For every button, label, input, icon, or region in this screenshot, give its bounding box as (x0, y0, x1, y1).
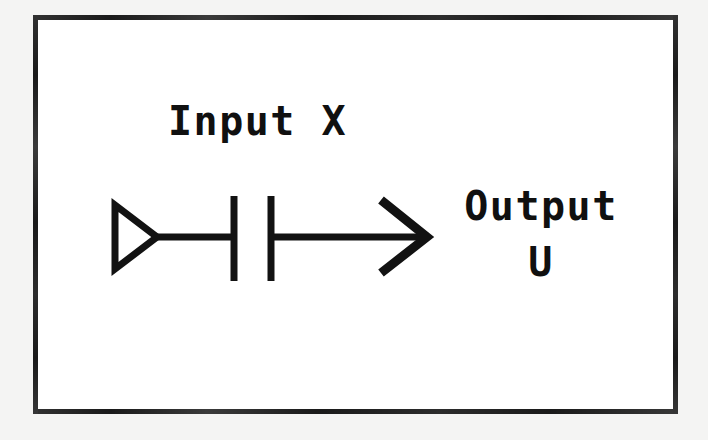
output-label-line2: U (458, 242, 624, 282)
frame-edge-bottom (33, 409, 678, 414)
output-label: OutputU (458, 186, 624, 282)
output-label-line1: Output (464, 183, 618, 229)
frame-edge-top (33, 15, 678, 20)
frame-edge-right (673, 15, 678, 414)
input-label: Input X (168, 101, 347, 141)
diagram-page: Input X OutputU (0, 0, 708, 440)
frame-edge-left (33, 15, 38, 414)
